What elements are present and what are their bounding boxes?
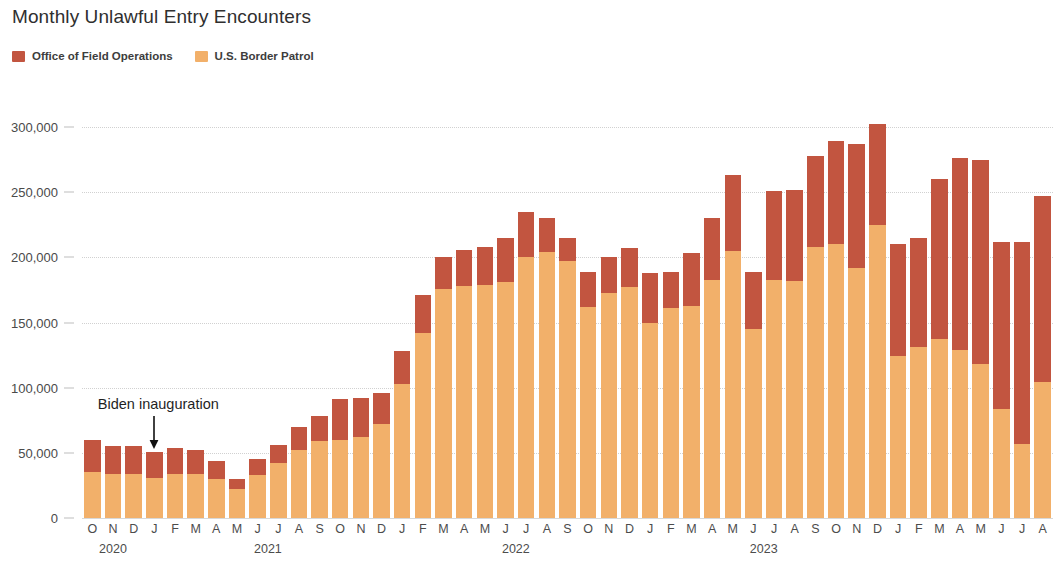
- x-axis-tick-label: F: [419, 522, 427, 536]
- y-axis-tick-label: 250,000: [11, 185, 58, 200]
- bar-column[interactable]: [663, 272, 680, 518]
- bar-column[interactable]: [807, 156, 824, 518]
- bar-column[interactable]: [931, 179, 948, 518]
- bar-column[interactable]: [249, 459, 266, 518]
- bar-column[interactable]: [972, 160, 989, 518]
- bar-column[interactable]: [559, 238, 576, 518]
- bar-column[interactable]: [786, 190, 803, 518]
- bar-column[interactable]: [270, 445, 287, 518]
- x-axis-tick-label: F: [915, 522, 923, 536]
- bar-column[interactable]: [869, 124, 886, 518]
- y-axis-tick-mark: [64, 127, 74, 128]
- bar-column[interactable]: [1014, 242, 1031, 518]
- x-axis-tick-label: O: [831, 522, 841, 536]
- bar-column[interactable]: [828, 141, 845, 518]
- y-axis-tick-mark: [64, 322, 74, 323]
- bar-segment-usbp: [745, 329, 762, 518]
- bar-segment-ofo: [146, 452, 163, 478]
- bar-column[interactable]: [497, 238, 514, 518]
- bar-column[interactable]: [373, 393, 390, 518]
- bar-column[interactable]: [353, 398, 370, 518]
- bar-column[interactable]: [766, 191, 783, 518]
- bar-column[interactable]: [125, 446, 142, 518]
- bar-column[interactable]: [910, 238, 927, 518]
- bar-column[interactable]: [311, 416, 328, 518]
- bar-segment-usbp: [910, 347, 927, 518]
- bar-segment-usbp: [828, 244, 845, 518]
- down-arrow-icon: [147, 416, 161, 450]
- bar-column[interactable]: [394, 351, 411, 518]
- bar-segment-ofo: [229, 479, 246, 489]
- x-axis-tick-label: J: [771, 522, 777, 536]
- bar-column[interactable]: [208, 461, 225, 518]
- bar-column[interactable]: [229, 479, 246, 518]
- bar-segment-ofo: [187, 450, 204, 473]
- bar-segment-ofo: [642, 273, 659, 323]
- x-axis-tick-label: A: [1038, 522, 1046, 536]
- bar-column[interactable]: [745, 272, 762, 518]
- legend: Office of Field Operations U.S. Border P…: [12, 50, 314, 62]
- bar-segment-ofo: [394, 351, 411, 384]
- bar-segment-ofo: [910, 238, 927, 347]
- bar-column[interactable]: [952, 158, 969, 518]
- bar-column[interactable]: [435, 257, 452, 518]
- x-axis-tick-label: O: [87, 522, 97, 536]
- x-axis-tick-label: J: [998, 522, 1004, 536]
- bar-segment-usbp: [621, 287, 638, 518]
- bar-segment-ofo: [332, 399, 349, 439]
- y-axis-tick-label: 100,000: [11, 380, 58, 395]
- bar-segment-usbp: [1014, 444, 1031, 518]
- bar-column[interactable]: [890, 244, 907, 518]
- bar-segment-ofo: [601, 257, 618, 292]
- bar-column[interactable]: [187, 450, 204, 518]
- bar-column[interactable]: [105, 446, 122, 518]
- x-axis-tick-label: N: [852, 522, 861, 536]
- bar-segment-ofo: [518, 212, 535, 258]
- bar-segment-ofo: [539, 218, 556, 252]
- bar-segment-usbp: [786, 281, 803, 518]
- bar-segment-ofo: [848, 144, 865, 268]
- legend-swatch-usbp: [195, 51, 208, 62]
- bar-column[interactable]: [848, 144, 865, 518]
- x-axis-tick-label: A: [543, 522, 551, 536]
- bar-segment-usbp: [952, 350, 969, 518]
- bar-segment-usbp: [291, 450, 308, 518]
- legend-item-usbp[interactable]: U.S. Border Patrol: [195, 50, 314, 62]
- bar-column[interactable]: [415, 295, 432, 518]
- bar-column[interactable]: [518, 212, 535, 518]
- bar-segment-ofo: [1034, 196, 1051, 382]
- bar-column[interactable]: [725, 175, 742, 518]
- bar-column[interactable]: [539, 218, 556, 518]
- bar-column[interactable]: [704, 218, 721, 518]
- bar-segment-usbp: [890, 356, 907, 518]
- x-axis: ONDJFMAMJJASONDJFMAMJJASONDJFMAMJJASONDJ…: [82, 518, 1053, 562]
- x-axis-tick-label: M: [190, 522, 200, 536]
- bar-column[interactable]: [332, 399, 349, 518]
- bar-segment-ofo: [725, 175, 742, 251]
- bar-column[interactable]: [683, 253, 700, 518]
- bar-column[interactable]: [84, 440, 101, 518]
- bar-column[interactable]: [621, 248, 638, 518]
- chart-root: Monthly Unlawful Entry Encounters Office…: [0, 0, 1053, 562]
- annotation-label: Biden inauguration: [98, 396, 219, 412]
- bar-column[interactable]: [146, 452, 163, 518]
- bar-column[interactable]: [601, 257, 618, 518]
- bar-column[interactable]: [477, 247, 494, 518]
- bar-column[interactable]: [167, 448, 184, 518]
- bar-column[interactable]: [1034, 196, 1051, 518]
- bar-column[interactable]: [580, 272, 597, 518]
- bar-segment-ofo: [477, 247, 494, 285]
- bar-segment-usbp: [807, 247, 824, 518]
- bar-column[interactable]: [642, 273, 659, 518]
- bar-column[interactable]: [456, 250, 473, 518]
- y-axis-tick-mark: [64, 257, 74, 258]
- legend-label-usbp: U.S. Border Patrol: [215, 50, 314, 62]
- x-axis-tick-label: J: [647, 522, 653, 536]
- x-axis-tick-label: F: [171, 522, 179, 536]
- bar-column[interactable]: [993, 242, 1010, 518]
- bar-column[interactable]: [291, 427, 308, 518]
- legend-item-ofo[interactable]: Office of Field Operations: [12, 50, 173, 62]
- y-axis-tick-mark: [64, 518, 74, 519]
- bar-segment-usbp: [518, 257, 535, 518]
- bar-segment-usbp: [539, 252, 556, 518]
